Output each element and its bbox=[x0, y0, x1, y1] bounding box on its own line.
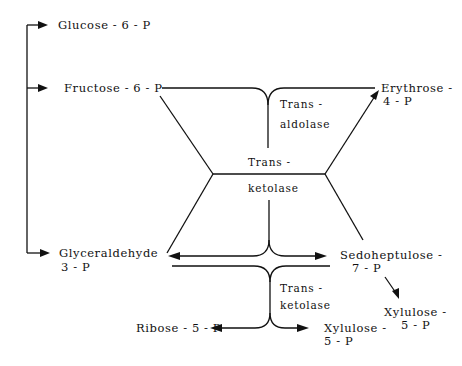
transketolase-mid-label-line2: ketolase bbox=[248, 181, 299, 196]
transketolase-low-label-line1: Trans - bbox=[280, 281, 323, 296]
pentose-phosphate-diagram: Glucose - 6 - P Fructose - 6 - P Erythro… bbox=[0, 0, 462, 366]
glyceraldehyde-3p-label-line1: Glyceraldehyde bbox=[59, 247, 158, 260]
glyceraldehyde-3p-label-line2: 3 - P bbox=[61, 261, 90, 274]
ribose-5p-label: Ribose - 5 - P bbox=[136, 322, 221, 335]
transketolase-mid-label-line1: Trans - bbox=[248, 155, 291, 170]
transaldolase-reaction bbox=[162, 88, 375, 148]
sedo-to-xylulose-arrow bbox=[385, 277, 399, 299]
sedoheptulose-7p-label-line2: 7 - P bbox=[352, 262, 381, 275]
xylulose-5p-bottom-label-line2: 5 - P bbox=[324, 335, 353, 348]
feedback-bracket bbox=[27, 21, 50, 257]
transketolase-low-label-line2: ketolase bbox=[280, 298, 331, 313]
transaldolase-label-line2: aldolase bbox=[280, 117, 330, 132]
glucose-6p-label: Glucose - 6 - P bbox=[58, 19, 151, 32]
xylulose-5p-right-label-line2: 5 - P bbox=[401, 319, 430, 332]
transketolase-mid-reaction bbox=[168, 200, 327, 260]
fructose-6p-label: Fructose - 6 - P bbox=[64, 82, 163, 95]
transaldolase-label-line1: Trans - bbox=[280, 97, 323, 112]
erythrose-4p-label-line2: 4 - P bbox=[383, 95, 412, 108]
